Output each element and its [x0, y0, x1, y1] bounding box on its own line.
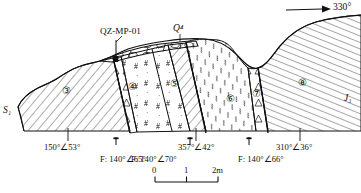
unit-marker-4: ④	[128, 82, 137, 92]
quaternary-label: Q⁴	[173, 23, 183, 33]
strat-label-right: J₁	[344, 93, 352, 103]
bedding-attitude-3: 310°∠36°	[276, 143, 312, 152]
bedding-attitude-1: 150°∠53°	[44, 143, 80, 152]
cross-section-figure: # · # ·	[0, 0, 361, 193]
unit-marker-6: ⑥	[226, 94, 235, 104]
north-arrow-label: 330°	[333, 2, 351, 12]
borehole-leader-line	[116, 36, 122, 42]
borehole-symbol	[114, 40, 119, 62]
unit-s1-body	[18, 58, 130, 131]
unit-marker-5: ⑤	[170, 79, 179, 89]
unit-marker-7: ⑦	[252, 89, 261, 99]
scale-tick-0: 0	[152, 166, 156, 175]
scale-tick-2: 2m	[212, 166, 223, 175]
scale-bar	[155, 177, 218, 183]
scale-tick-1: 1	[184, 166, 188, 175]
fault-attitude-3: F: 140°∠66°	[238, 155, 284, 164]
unit-j1-body	[258, 15, 361, 131]
unit-marker-8: ⑧	[298, 78, 307, 88]
unit-marker-3: ③	[62, 86, 71, 96]
strat-label-left: S₁	[3, 105, 11, 115]
borehole-label: QZ-MP-01	[100, 27, 141, 36]
fault-attitude-2: F: 140°∠70°	[131, 155, 177, 164]
bedding-attitude-2: 357°∠42°	[178, 143, 214, 152]
north-arrow-icon	[286, 5, 331, 12]
